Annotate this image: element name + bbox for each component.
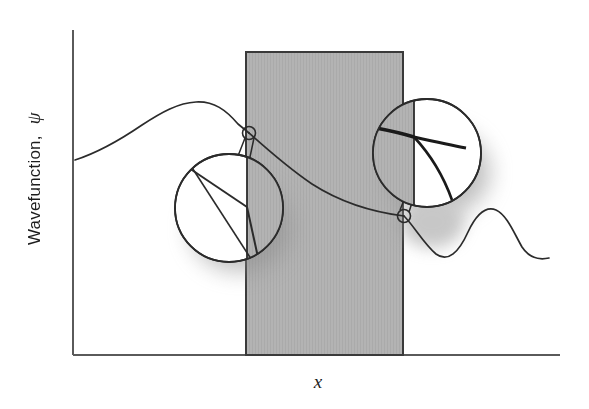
wavefunction-tunneling-figure: Wavefunction, ψ x	[0, 0, 589, 409]
y-axis-psi-symbol: ψ	[23, 111, 44, 124]
figure-canvas: Wavefunction, ψ x	[0, 0, 589, 409]
incident-wavefunction-curve	[75, 102, 249, 160]
y-axis-label-text: Wavefunction,	[25, 135, 44, 245]
y-axis-label: Wavefunction, ψ	[23, 111, 44, 245]
x-axis-label: x	[313, 371, 323, 392]
